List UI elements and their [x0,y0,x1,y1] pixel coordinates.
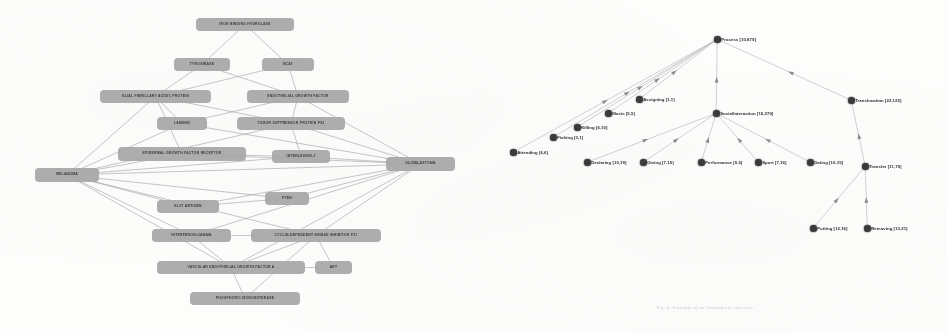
edge-arrowhead [654,78,660,83]
edge-arrowhead [624,91,630,96]
tree-node-label: SocialInteraction [15,270] [720,111,773,116]
graph-node: GLIOBLASTOMA [386,157,455,171]
tree-node-label: Removing [13,21] [871,226,907,231]
tree-node-label: Performance [5,5] [705,160,742,165]
tree-node: SocialInteraction [15,270] [713,110,773,117]
graph-node: LAMININ [157,117,207,130]
tree-node-dot-icon [807,159,814,166]
graph-edge [231,164,421,268]
graph-node: KI-67 ANTIGEN [157,200,219,213]
graph-node: TUMOR SUPPRESSOR PROTEIN P53 [237,117,345,130]
tree-node-dot-icon [605,110,612,117]
tree-node: Declaring [10,19] [584,159,626,166]
tree-edge [716,113,810,162]
tree-node-label: Translocation [22,122] [855,98,901,103]
tree-node-label: Assigning [1,1] [643,97,675,102]
tree-node-label: Attending [6,6] [517,150,548,155]
tree-node-dot-icon [864,225,871,232]
edge-arrowhead [671,70,677,75]
edge-arrowhead [715,77,719,83]
edge-arrowhead [642,139,648,143]
graph-node: NCAT [262,58,314,71]
tree-node-dot-icon [810,225,817,232]
tree-node: Assigning [1,1] [636,96,675,103]
graph-node: VASCULAR ENDOTHELIAL GROWTH FACTOR A [157,261,305,274]
tree-node: Giving [7,15] [640,159,674,166]
tree-edge [717,39,851,100]
tree-node-dot-icon [550,134,557,141]
tree-node-label: Fishing [3,1] [557,135,583,140]
tree-edge [513,39,717,152]
tree-node-label: Putting [12,16] [817,226,847,231]
tree-edge [643,113,716,162]
tree-node: Sport [7,16] [755,159,786,166]
tree-node-label: Killing [6,10] [581,125,607,130]
graph-node: EPIDERMAL GROWTH FACTOR RECEPTOR [118,147,246,161]
edge-arrowhead [602,100,608,104]
edge-arrowhead [705,137,709,143]
tree-node-dot-icon [510,149,517,156]
tree-node: Dating [10,15] [807,159,843,166]
graph-node: GLIAL FIBRILLARY ACIDIC PROTEIN [100,90,211,103]
tree-node: Process [10,879] [714,36,756,43]
tree-node-dot-icon [640,159,647,166]
graph-edge [67,97,156,176]
tree-node-dot-icon [636,96,643,103]
graph-node: INTERFERON-GAMMA [152,229,231,242]
graph-edge [67,175,231,268]
graph-node: TYROSINASE [174,58,230,71]
graph-node: PHOSPHORIC MONOESTERASE [190,292,300,305]
tree-edge [851,100,865,166]
edge-arrowhead [673,138,679,143]
edge-arrowhead [788,71,794,75]
process-ontology-tree-figure: Process [10,879]SocialInteraction [15,27… [470,0,947,334]
tree-node-label: Music [5,5] [612,111,635,116]
tree-node: Music [5,5] [605,110,635,117]
tree-node: Killing [6,10] [574,124,607,131]
tree-node-dot-icon [755,159,762,166]
tree-node-label: Sport [7,16] [762,160,786,165]
edge-arrowhead [864,197,868,203]
graph-edge [316,164,421,236]
figure-caption: Fig. 4. Example of an Ontological struct… [570,305,840,310]
graph-node: INTERLEUKIN-2 [272,150,330,163]
tree-edge [716,113,758,162]
tree-edge [587,113,716,162]
tree-node-label: Process [10,879] [721,37,756,42]
tree-node: Removing [13,21] [864,225,908,232]
tree-node-dot-icon [698,159,705,166]
graph-node: ENDOTHELIAL GROWTH FACTOR [247,90,349,103]
tree-edge [813,166,865,228]
tree-node-dot-icon [574,124,581,131]
tree-node: Translocation [22,122] [848,97,901,104]
edge-arrowhead [765,139,771,143]
graph-node: MELANOMA [35,168,99,182]
tree-node: Transfer [11,79] [862,163,902,170]
tree-node-label: Transfer [11,79] [869,164,901,169]
graph-node: AKT [315,261,352,274]
melanoma-glioblastoma-graph-figure: IRON BINDING HYDROLASETYROSINASENCATGLIA… [0,0,480,334]
tree-node-dot-icon [862,163,869,170]
tree-edge [577,39,717,127]
graph-node: CYCLIN-DEPENDENT KINASE INHIBITOR P21 [251,229,381,242]
graph-node: PTEN [265,192,309,205]
tree-node-dot-icon [714,36,721,43]
tree-node-dot-icon [713,110,720,117]
tree-node-dot-icon [848,97,855,104]
tree-node-label: Giving [7,15] [647,160,673,165]
tree-node-label: Dating [10,15] [814,160,843,165]
tree-node: Attending [6,6] [510,149,548,156]
tree-edge [716,39,717,113]
graph-node: IRON BINDING HYDROLASE [196,18,294,31]
tree-node: Performance [5,5] [698,159,742,166]
tree-node-dot-icon [584,159,591,166]
tree-node: Fishing [3,1] [550,134,583,141]
graph-edge [67,175,287,199]
tree-node-label: Declaring [10,19] [591,160,626,165]
tree-edge [639,39,717,99]
tree-node: Putting [12,16] [810,225,848,232]
